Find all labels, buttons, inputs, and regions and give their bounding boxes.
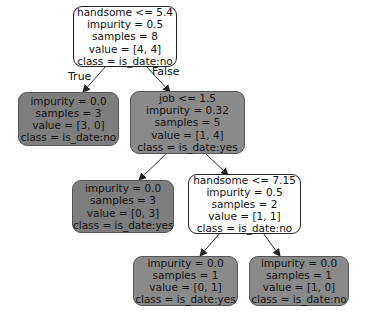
- node-leaf-br-impurity: impurity = 0.0: [250, 257, 348, 269]
- node-job-value: value = [1, 4]: [131, 129, 244, 141]
- node-root-split: handsome <= 5.4: [74, 6, 176, 18]
- node-root-impurity: impurity = 0.5: [74, 18, 176, 30]
- edge-handsome2-leafbr: [263, 233, 280, 256]
- node-leaf-bl-impurity: impurity = 0.0: [134, 257, 237, 269]
- edge-handsome2-leafbl: [200, 233, 220, 256]
- node-leaf-mid-value: value = [0, 3]: [73, 207, 173, 219]
- node-leaf-left-value: value = [3, 0]: [19, 119, 118, 131]
- node-job: job <= 1.5 impurity = 0.32 samples = 5 v…: [130, 91, 245, 154]
- node-handsome2-impurity: impurity = 0.5: [189, 186, 300, 198]
- node-leaf-br-samples: samples = 1: [250, 269, 348, 281]
- edge-job-handsome2: [205, 153, 228, 175]
- node-leaf-left-class: class = is_date:no: [19, 131, 118, 143]
- node-leaf-br: impurity = 0.0 samples = 1 value = [1, 0…: [249, 256, 349, 306]
- node-leaf-bl-class: class = is_date:yes: [134, 293, 237, 305]
- node-root-value: value = [4, 4]: [74, 43, 176, 55]
- node-job-samples: samples = 5: [131, 116, 244, 128]
- node-root-class: class = is_date:no: [74, 55, 176, 67]
- node-leaf-br-class: class = is_date:no: [250, 293, 348, 305]
- node-handsome2-class: class = is_date:no: [189, 222, 300, 234]
- node-handsome2-split: handsome <= 7.15: [189, 174, 300, 186]
- node-handsome2-value: value = [1, 1]: [189, 210, 300, 222]
- node-job-impurity: impurity = 0.32: [131, 104, 244, 116]
- node-leaf-left-samples: samples = 3: [19, 107, 118, 119]
- node-job-class: class = is_date:yes: [131, 141, 244, 153]
- node-leaf-bl-value: value = [0, 1]: [134, 281, 237, 293]
- node-leaf-left-impurity: impurity = 0.0: [19, 95, 118, 107]
- node-leaf-mid-impurity: impurity = 0.0: [73, 182, 173, 194]
- node-handsome2: handsome <= 7.15 impurity = 0.5 samples …: [188, 174, 301, 234]
- node-leaf-left: impurity = 0.0 samples = 3 value = [3, 0…: [18, 92, 119, 146]
- node-leaf-br-value: value = [1, 0]: [250, 281, 348, 293]
- node-job-split: job <= 1.5: [131, 92, 244, 104]
- node-leaf-mid-class: class = is_date:yes: [73, 219, 173, 231]
- edge-job-leafmid: [139, 153, 167, 180]
- node-leaf-bl-samples: samples = 1: [134, 269, 237, 281]
- node-handsome2-samples: samples = 2: [189, 198, 300, 210]
- node-leaf-bl: impurity = 0.0 samples = 1 value = [0, 1…: [133, 256, 238, 306]
- edge-label-true: True: [68, 70, 91, 83]
- node-root: handsome <= 5.4 impurity = 0.5 samples =…: [73, 6, 177, 67]
- node-leaf-mid-samples: samples = 3: [73, 194, 173, 206]
- node-leaf-mid: impurity = 0.0 samples = 3 value = [0, 3…: [72, 180, 174, 233]
- node-root-samples: samples = 8: [74, 30, 176, 42]
